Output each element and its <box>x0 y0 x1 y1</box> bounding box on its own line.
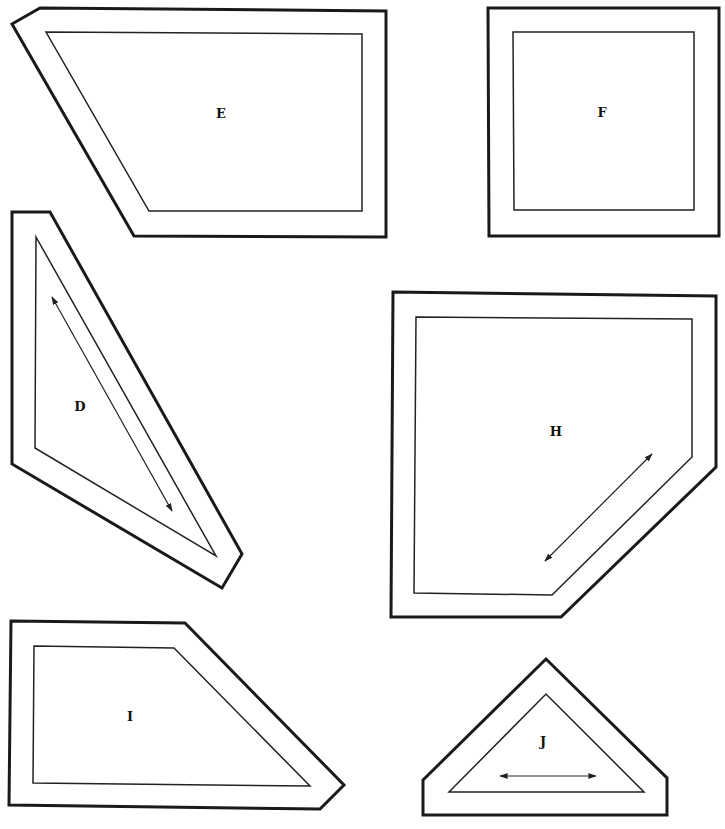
piece-j-label: J <box>539 734 546 749</box>
piece-i-label: I <box>127 709 133 724</box>
piece-f: F <box>488 8 719 236</box>
piece-e-label: E <box>216 106 226 121</box>
piece-e: E <box>12 8 386 237</box>
piece-h: H <box>391 292 716 617</box>
piece-h-label: H <box>550 424 562 439</box>
pattern-pieces-diagram: E F D H I J <box>0 0 725 829</box>
piece-f-inner-outline <box>513 32 694 210</box>
piece-i: I <box>9 621 344 809</box>
piece-d-label: D <box>74 399 85 414</box>
piece-j: J <box>423 659 667 815</box>
piece-f-label: F <box>597 105 607 120</box>
piece-d: D <box>12 212 242 588</box>
